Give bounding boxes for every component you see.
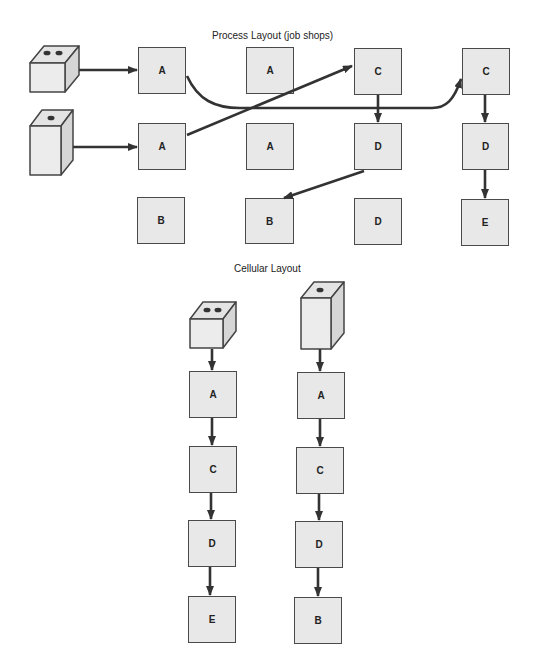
two-hole-part-icon [190,302,236,348]
two-hole-part-icon [30,46,79,92]
diagram-overlay [0,0,536,671]
flow-arrows-process [73,66,485,198]
one-hole-part-icon [301,282,344,349]
flow-arrows-cellular [210,349,320,596]
one-hole-part-icon [30,110,73,175]
